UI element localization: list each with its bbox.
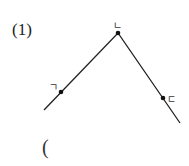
point-digeut (161, 96, 166, 101)
point-giyeok (59, 90, 64, 95)
label-giyeok: ㄱ (49, 82, 58, 93)
bent-line-diagram: ㄱ ㄴ ㄷ (0, 0, 189, 166)
label-nieun: ㄴ (113, 20, 122, 31)
label-digeut: ㄷ (167, 94, 176, 105)
answer-paren: ( (42, 136, 49, 159)
point-nieun (116, 31, 121, 36)
bent-line (44, 33, 180, 123)
